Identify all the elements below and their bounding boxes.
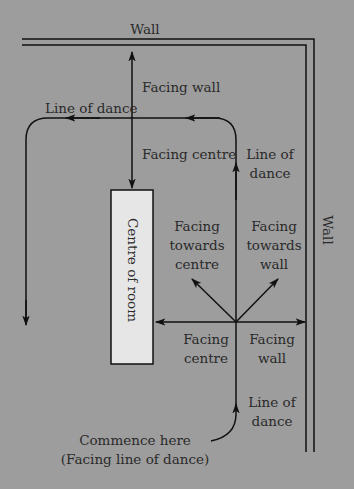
facing-towards-wall-2: towards [246, 237, 301, 253]
facing-towards-wall-1: Facing [251, 218, 297, 234]
line-of-dance-top-label: Line of dance [45, 100, 138, 116]
facing-towards-wall-3: wall [260, 256, 288, 272]
facing-towards-centre-3: centre [175, 256, 219, 272]
line-of-dance-bottom-2: dance [252, 413, 293, 429]
line-of-dance-bottom-1: Line of [248, 394, 296, 410]
facing-centre-bottom-1: Facing [183, 331, 229, 347]
facing-centre-top-label: Facing centre [142, 146, 236, 162]
line-of-dance-right-2: dance [250, 165, 291, 181]
facing-towards-centre-2: towards [169, 237, 224, 253]
commence-curve [211, 404, 236, 441]
wall-top-label: Wall [130, 21, 159, 37]
centre-of-room-label: Centre of room [125, 218, 141, 322]
facing-wall-bottom-2: wall [258, 350, 286, 366]
facing-centre-bottom-2: centre [184, 350, 228, 366]
facing-towards-wall-arrow [236, 279, 278, 322]
facing-wall-bottom-1: Facing [249, 331, 295, 347]
commence-label-2: (Facing line of dance) [61, 451, 210, 467]
facing-wall-top-label: Facing wall [142, 79, 220, 95]
wall-right-label: Wall [320, 215, 336, 244]
commence-label-1: Commence here [79, 432, 191, 448]
ballroom-diagram: Wall Wall Facing wall Line of dance Faci… [0, 0, 354, 489]
line-of-dance-right-1: Line of [246, 146, 294, 162]
facing-towards-centre-1: Facing [174, 218, 220, 234]
facing-towards-centre-arrow [192, 279, 236, 322]
